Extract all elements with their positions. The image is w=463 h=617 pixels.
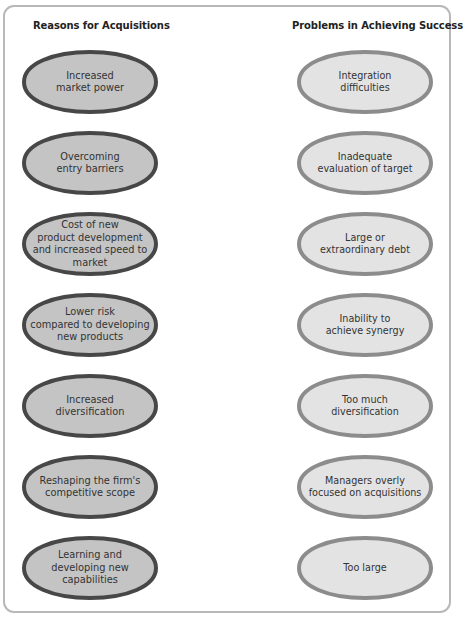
- problem-node: Too large: [297, 536, 433, 600]
- problems-column-title: Problems in Achieving Success: [292, 20, 463, 31]
- reason-node: Overcoming entry barriers: [22, 131, 158, 195]
- problem-node: Managers overly focused on acquisitions: [297, 455, 433, 519]
- node-label: Integration difficulties: [305, 50, 425, 114]
- node-label: Managers overly focused on acquisitions: [305, 455, 425, 519]
- node-label: Overcoming entry barriers: [30, 131, 150, 195]
- reason-node: Learning and developing new capabilities: [22, 536, 158, 600]
- node-label: Inability to achieve synergy: [305, 293, 425, 357]
- node-label: Too large: [305, 536, 425, 600]
- problem-node: Integration difficulties: [297, 50, 433, 114]
- node-label: Learning and developing new capabilities: [30, 536, 150, 600]
- reason-node: Reshaping the firm's competitive scope: [22, 455, 158, 519]
- problem-node: Large or extraordinary debt: [297, 212, 433, 276]
- node-label: Cost of new product development and incr…: [30, 212, 150, 276]
- problem-node: Too much diversification: [297, 374, 433, 438]
- node-label: Increased market power: [30, 50, 150, 114]
- node-label: Reshaping the firm's competitive scope: [30, 455, 150, 519]
- node-label: Too much diversification: [305, 374, 425, 438]
- problem-node: Inadequate evaluation of target: [297, 131, 433, 195]
- reason-node: Lower risk compared to developing new pr…: [22, 293, 158, 357]
- reasons-column-title: Reasons for Acquisitions: [33, 20, 170, 31]
- reason-node: Cost of new product development and incr…: [22, 212, 158, 276]
- reason-node: Increased diversification: [22, 374, 158, 438]
- node-label: Lower risk compared to developing new pr…: [30, 293, 150, 357]
- reason-node: Increased market power: [22, 50, 158, 114]
- node-label: Inadequate evaluation of target: [305, 131, 425, 195]
- node-label: Increased diversification: [30, 374, 150, 438]
- node-label: Large or extraordinary debt: [305, 212, 425, 276]
- problem-node: Inability to achieve synergy: [297, 293, 433, 357]
